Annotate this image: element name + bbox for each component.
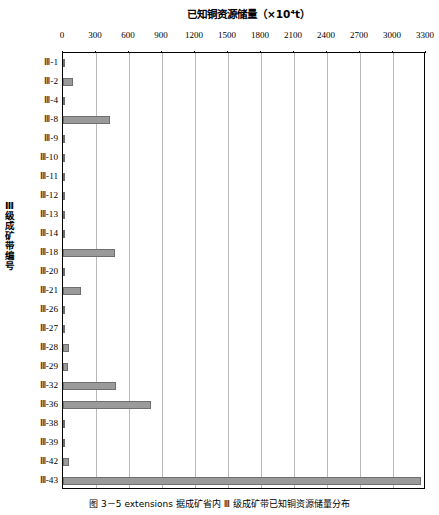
bar	[63, 78, 73, 86]
y-axis-tick-label: Ⅲ-18	[40, 246, 58, 257]
bar	[63, 116, 110, 124]
gridline	[162, 53, 163, 488]
bar	[63, 344, 69, 352]
y-axis-tick-label: Ⅲ-29	[40, 360, 58, 371]
bar	[63, 382, 116, 390]
bar	[63, 306, 65, 314]
bar	[63, 287, 81, 295]
figure-container: 已知铜资源储量（×10⁴t） Ⅲ级成矿带编号 Ⅲ-1Ⅲ-2Ⅲ-4Ⅲ-8Ⅲ-9Ⅲ-…	[0, 0, 439, 515]
x-axis-tick-mark	[326, 51, 327, 53]
y-axis-tick-label: Ⅲ-21	[40, 284, 58, 295]
gridline	[228, 53, 229, 488]
y-axis-tick-label: Ⅲ-38	[40, 417, 58, 428]
x-axis-tick-mark	[161, 51, 162, 53]
x-axis-tick-mark	[62, 51, 63, 53]
y-axis-tick-label: Ⅲ-1	[44, 56, 58, 67]
y-axis-tick-label: Ⅲ-28	[40, 341, 58, 352]
x-axis-tick-mark	[260, 51, 261, 53]
bar	[63, 401, 151, 409]
gridline	[327, 53, 328, 488]
y-axis-tick-label: Ⅲ-43	[40, 474, 58, 485]
bar	[63, 211, 65, 219]
x-axis-tick-mark	[128, 51, 129, 53]
gridline	[393, 53, 394, 488]
y-axis-tick-label: Ⅲ-4	[44, 94, 58, 105]
bar	[63, 363, 68, 371]
bar	[63, 135, 65, 143]
gridline	[360, 53, 361, 488]
y-axis-tick-label: Ⅲ-10	[40, 151, 58, 162]
y-axis-tick-label: Ⅲ-39	[40, 436, 58, 447]
chart-title: 已知铜资源储量（×10⁴t）	[0, 6, 439, 21]
y-axis-tick-label: Ⅲ-14	[40, 227, 58, 238]
y-axis-tick-label: Ⅲ-27	[40, 322, 58, 333]
bar	[63, 439, 65, 447]
gridline	[261, 53, 262, 488]
y-axis-tick-label: Ⅲ-8	[44, 113, 58, 124]
y-axis-tick-label: Ⅲ-2	[44, 75, 58, 86]
bar	[63, 59, 65, 67]
x-axis-tick-label: 3300	[405, 30, 439, 40]
bar	[63, 173, 65, 181]
y-axis-tick-label: Ⅲ-42	[40, 455, 58, 466]
bar	[63, 477, 421, 485]
bar	[63, 325, 65, 333]
y-axis-tick-label: Ⅲ-26	[40, 303, 58, 314]
bar	[63, 192, 65, 200]
y-axis-tick-label: Ⅲ-36	[40, 398, 58, 409]
y-axis-tick-label: Ⅲ-9	[44, 132, 58, 143]
y-axis-labels: Ⅲ-1Ⅲ-2Ⅲ-4Ⅲ-8Ⅲ-9Ⅲ-10Ⅲ-11Ⅲ-12Ⅲ-13Ⅲ-14Ⅲ-18Ⅲ…	[0, 52, 62, 489]
bar	[63, 230, 65, 238]
y-axis-tick-label: Ⅲ-13	[40, 208, 58, 219]
y-axis-tick-label: Ⅲ-11	[40, 170, 58, 181]
bar	[63, 458, 69, 466]
x-axis-tick-mark	[359, 51, 360, 53]
x-axis-tick-mark	[227, 51, 228, 53]
plot-area	[62, 52, 425, 489]
figure-caption: 图 3－5 extensions 据成矿省内 Ⅲ 级成矿带已知铜资源储量分布	[0, 497, 439, 510]
y-axis-tick-label: Ⅲ-12	[40, 189, 58, 200]
y-axis-tick-label: Ⅲ-32	[40, 379, 58, 390]
x-axis-tick-mark	[293, 51, 294, 53]
x-axis-tick-mark	[392, 51, 393, 53]
bar	[63, 154, 65, 162]
y-axis-tick-label: Ⅲ-20	[40, 265, 58, 276]
plot-wrapper	[62, 52, 425, 489]
gridline	[294, 53, 295, 488]
bar	[63, 249, 115, 257]
x-axis-tick-mark	[194, 51, 195, 53]
gridline	[129, 53, 130, 488]
bar	[63, 420, 65, 428]
x-axis-tick-mark	[425, 51, 426, 53]
x-axis-tick-mark	[95, 51, 96, 53]
gridline	[195, 53, 196, 488]
bar	[63, 97, 65, 105]
bar	[63, 268, 65, 276]
